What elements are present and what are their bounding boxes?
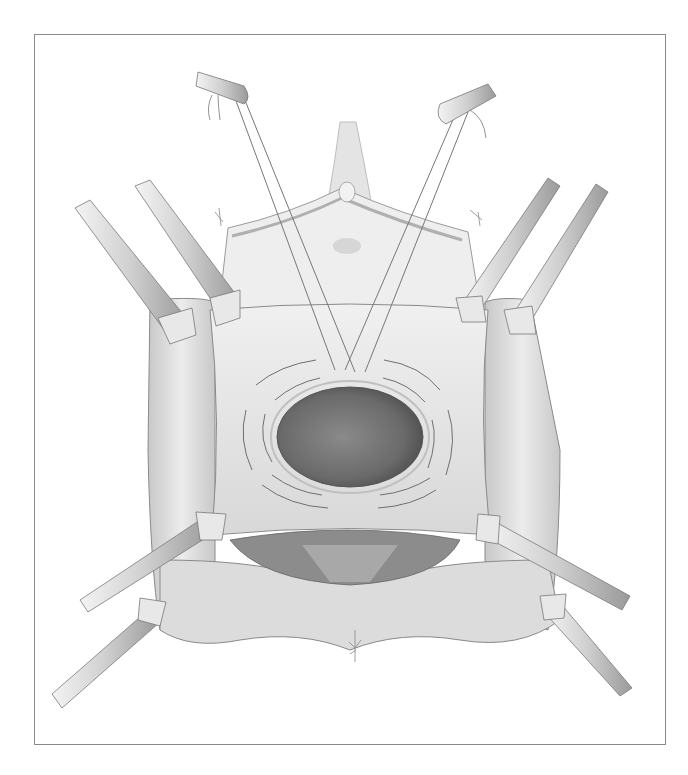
central-opening xyxy=(277,387,423,487)
upper-tissue xyxy=(215,182,482,318)
retractor-lower-left-2 xyxy=(52,598,166,708)
retractor-upper-right-2 xyxy=(504,184,608,334)
clamp-right xyxy=(438,84,496,138)
retractor-lower-right-2 xyxy=(540,594,632,696)
surgical-illustration xyxy=(0,0,688,775)
